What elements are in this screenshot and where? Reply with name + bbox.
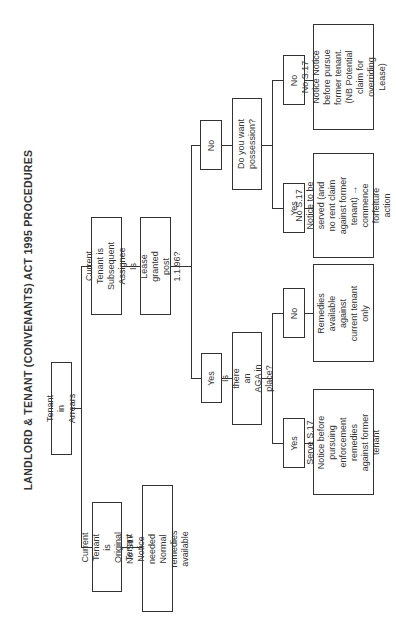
- node-aga-no: No: [283, 288, 305, 338]
- connector: [262, 145, 272, 146]
- diagram-title: LANDLORD & TENANT (CONVENANTS) ACT 1995 …: [22, 150, 34, 491]
- node-original-result: No S17 Notice needed Normal remedies ava…: [142, 485, 173, 612]
- connector: [191, 145, 192, 379]
- node-original-tenant: Current Tenant is Original Tenant: [92, 502, 122, 592]
- connector: [272, 80, 283, 81]
- node-possession-no-result: No S.17 Notice Notice before pursue form…: [313, 24, 374, 130]
- node-aga-yes: Yes: [283, 418, 305, 468]
- node-aga-yes-result: Serve S.17 Notice before pursuing enforc…: [313, 389, 374, 495]
- connector: [191, 378, 201, 379]
- node-label: Serve S.17 Notice before pursuing enforc…: [305, 413, 382, 472]
- node-label: Tenant in Arrears: [45, 394, 78, 424]
- node-lease-no: No: [200, 120, 222, 170]
- node-label: No S17 Notice needed Normal remedies ava…: [125, 530, 191, 567]
- node-label: Yes: [289, 433, 300, 453]
- node-label: No: [206, 135, 217, 155]
- connector: [272, 80, 273, 209]
- connector: [191, 145, 200, 146]
- connector: [272, 208, 283, 209]
- node-label: Do you want possession?: [236, 119, 258, 169]
- node-tenant-in-arrears: Tenant in Arrears: [51, 362, 72, 455]
- node-subsequent-assignee: Current Tenant is Subsequent Assignee: [91, 217, 122, 315]
- node-label: Yes: [206, 369, 217, 388]
- node-possession-question: Do you want possession?: [232, 98, 262, 190]
- node-label: No S.17 Notice to be served (and no rent…: [294, 176, 393, 235]
- node-label: Is there an AGA in place?: [220, 365, 275, 393]
- node-lease-question: Is Lease granted post 1.1.96?: [140, 217, 171, 315]
- node-aga-question: Is there an AGA in place?: [232, 332, 262, 425]
- node-label: Current Tenant is Subsequent Assignee: [85, 242, 129, 290]
- node-label: No: [289, 70, 300, 90]
- node-label: No: [289, 303, 300, 323]
- node-label: Remedies available against current tenan…: [316, 284, 371, 343]
- node-possession-yes-result: No S.17 Notice to be served (and no rent…: [313, 153, 374, 258]
- node-label: Is Lease granted post 1.1.96?: [128, 251, 183, 282]
- connector: [272, 313, 283, 314]
- connector: [305, 313, 313, 314]
- connector: [272, 443, 283, 444]
- node-label: No S.17 Notice Notice before pursue form…: [300, 48, 388, 107]
- connector: [222, 145, 232, 146]
- node-aga-no-result: Remedies available against current tenan…: [313, 264, 374, 362]
- connector: [81, 266, 82, 548]
